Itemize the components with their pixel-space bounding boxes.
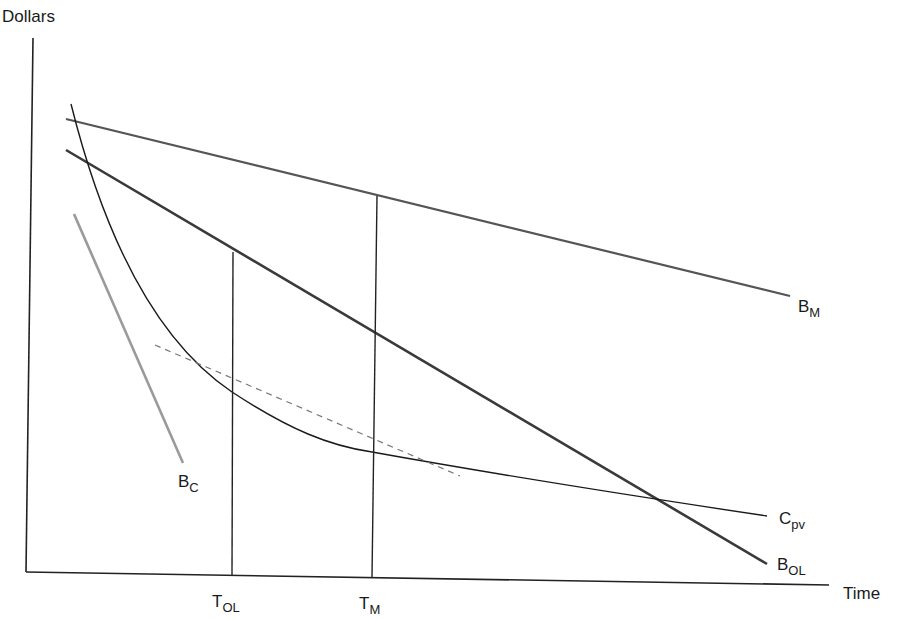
- c-pv-curve: [71, 104, 767, 516]
- t-m-vertical-line: [372, 196, 377, 578]
- b-c-line: [74, 214, 183, 463]
- y-axis: [26, 38, 33, 572]
- economic-life-diagram: Dollars Time BM BOL Cpv BC TOL TM: [0, 0, 904, 620]
- c-pv-label: Cpv: [779, 509, 806, 532]
- diagram-canvas: Dollars Time BM BOL Cpv BC TOL TM: [0, 0, 904, 620]
- x-axis: [26, 572, 829, 585]
- b-m-line: [66, 119, 790, 296]
- b-m-label: BM: [798, 297, 820, 320]
- t-ol-vertical-line: [232, 252, 233, 575]
- tangent-dashed-line: [155, 345, 460, 476]
- t-ol-label: TOL: [212, 592, 240, 615]
- b-c-label: BC: [178, 472, 199, 495]
- b-ol-label: BOL: [777, 555, 806, 578]
- y-axis-label: Dollars: [2, 7, 55, 26]
- b-ol-line: [66, 150, 767, 564]
- t-m-label: TM: [359, 594, 380, 617]
- x-axis-label: Time: [843, 584, 880, 603]
